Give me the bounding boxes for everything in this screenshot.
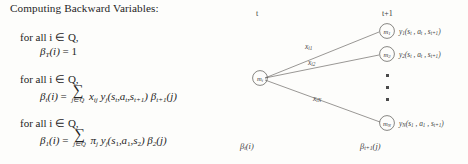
beta-next-subscript: t+1 bbox=[156, 96, 166, 104]
quantifier-1: for all i ∈ Q, bbox=[20, 31, 79, 44]
sum-limit: j∈Q bbox=[72, 96, 85, 103]
edge-label-i1: xi1 bbox=[305, 42, 312, 51]
target-node-N-label: mN bbox=[383, 120, 392, 129]
quantifier-3: for all i ∈ Q, bbox=[20, 117, 79, 130]
relation-3: = bbox=[62, 134, 68, 146]
sigma-icon: ∑ bbox=[72, 86, 85, 95]
diagram-canvas: mi m1 m2 mN bbox=[236, 0, 468, 164]
ellipsis-dot-2 bbox=[386, 86, 389, 89]
emission-label-1-subscript: 1 bbox=[402, 30, 405, 36]
edge-label-i2: xi2 bbox=[308, 58, 315, 67]
edge-to-node-1 bbox=[265, 32, 379, 78]
relation-2: = bbox=[61, 90, 67, 102]
beta-label-right: βt+1(j) bbox=[360, 142, 381, 151]
edge-label-i1-subscript: i1 bbox=[308, 45, 312, 51]
source-node-label: mi bbox=[257, 75, 264, 84]
summation-2: ∑ j∈Q bbox=[72, 86, 85, 103]
emission-label-N-subscript: N bbox=[402, 122, 405, 128]
beta-label-left: βt(i) bbox=[240, 142, 254, 151]
prior-subscript: j bbox=[96, 140, 98, 148]
time-label-t: t bbox=[256, 9, 258, 18]
relation-1: = bbox=[63, 45, 69, 57]
time-label-t-plus-1: t+1 bbox=[382, 9, 393, 18]
target-node-2-label: m2 bbox=[383, 51, 391, 60]
ellipsis-dot-3 bbox=[386, 98, 389, 101]
transition-diagram: mi m1 m2 mN t t+1 xi1 xi2 xiN y1(st , at… bbox=[236, 0, 468, 164]
ellipsis-dot-1 bbox=[386, 74, 389, 77]
emission-arguments: (s1,a1,s2) bbox=[108, 134, 145, 146]
beta-next-argument: (j) bbox=[156, 134, 166, 146]
edge-label-iN-subscript: iN bbox=[316, 97, 321, 103]
equation-1: βT(i) = 1 bbox=[40, 45, 77, 59]
edge-label-iN: xiN bbox=[313, 94, 321, 103]
target-node-1-label: m1 bbox=[383, 28, 390, 37]
beta-label-right-argument: (j) bbox=[373, 142, 381, 151]
beta-argument: (i) bbox=[47, 90, 57, 102]
figure-page: Computing Backward Variables: for all i … bbox=[0, 0, 468, 164]
beta-argument: (i) bbox=[49, 134, 59, 146]
sigma-icon: ∑ bbox=[73, 130, 86, 139]
page-title: Computing Backward Variables: bbox=[10, 2, 159, 14]
math-column: Computing Backward Variables: for all i … bbox=[0, 0, 236, 164]
edge-to-node-N bbox=[265, 80, 380, 122]
emission-label-2-subscript: 2 bbox=[402, 53, 405, 59]
beta-next-argument: (j) bbox=[166, 90, 176, 102]
transition-subscript: ij bbox=[94, 96, 98, 104]
edge-label-i2-subscript: i2 bbox=[311, 61, 315, 67]
beta-label-right-subscript: t+1 bbox=[364, 145, 372, 151]
rhs-1: 1 bbox=[72, 45, 78, 57]
equation-2: βt(i) = ∑ j∈Q xij yj(st,at,st+1) βt+1(j) bbox=[40, 86, 177, 104]
beta-argument: (i) bbox=[49, 45, 59, 57]
emission-label-2: y2(st , at , st+1) bbox=[399, 50, 441, 59]
beta-label-left-argument: (i) bbox=[246, 142, 254, 151]
quantifier-2: for all i ∈ Q, bbox=[20, 73, 79, 86]
emission-label-N: yN(s1 , a1 , st+1) bbox=[399, 119, 444, 128]
summation-3: ∑ j∈Q bbox=[73, 130, 86, 147]
emission-label-1: y1(st , at , st+1) bbox=[399, 27, 441, 36]
edge-to-node-2 bbox=[265, 55, 379, 78]
emission-arguments: (st,at,st+1) bbox=[107, 90, 148, 102]
equation-3: β1(i) = ∑ j∈Q πj yj(s1,a1,s2) β2(j) bbox=[40, 130, 167, 148]
sum-limit: j∈Q bbox=[73, 140, 86, 147]
